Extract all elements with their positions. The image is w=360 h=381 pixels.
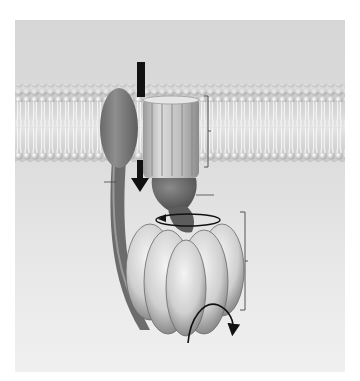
rotor-shaft (152, 178, 197, 233)
atp-synthase-diagram (0, 0, 360, 381)
diagram-graphics (0, 0, 360, 381)
fo-c-ring (143, 96, 199, 178)
